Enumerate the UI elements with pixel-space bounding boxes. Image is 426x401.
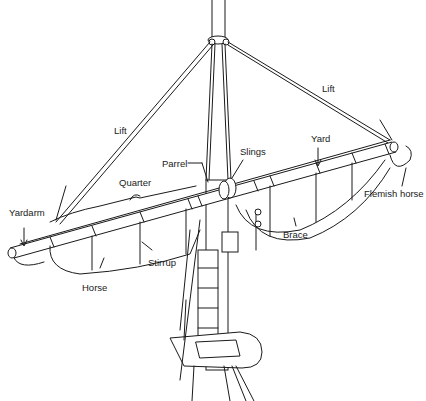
label-flemish-horse: Flemish horse [364,189,424,199]
label-parrel: Parrel [162,159,187,169]
label-stirrup: Stirrup [148,258,176,268]
mast-top [208,0,229,45]
top-platform [170,332,262,401]
yard-spar [8,140,398,258]
rigging-diagram: Lift Lift Parrel Slings Yard Quarter Yar… [0,0,426,401]
label-yardarm: Yardarm [9,208,45,218]
label-brace: Brace [283,230,308,240]
label-lift-left: Lift [114,126,127,136]
label-horse: Horse [82,283,107,293]
label-quarter: Quarter [119,178,151,188]
label-slings: Slings [240,147,266,157]
ties [206,44,231,180]
label-lift-right: Lift [322,84,335,94]
lift-line-right [228,42,390,143]
yard-rigging-illustration [0,0,426,401]
label-yard: Yard [311,134,330,144]
